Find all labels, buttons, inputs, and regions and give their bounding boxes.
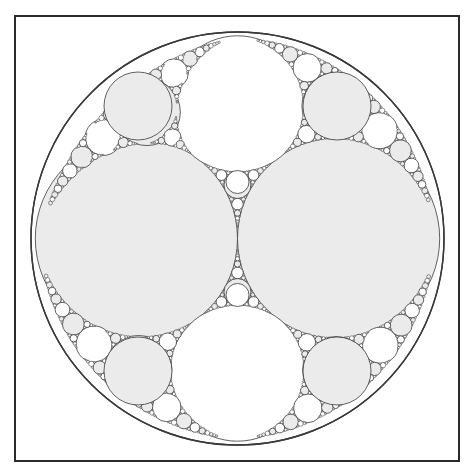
- figure-root: [0, 0, 474, 476]
- apollonian-gasket-canvas: [0, 0, 474, 476]
